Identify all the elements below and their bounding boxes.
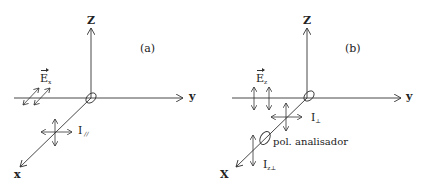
panel-a-axes	[14, 28, 183, 167]
intensity-label-a: I//	[78, 124, 88, 137]
analyzer-label: pol. analisador	[273, 136, 348, 147]
analyzed-intensity-label-b: Iz⊥	[263, 158, 276, 171]
incident-field-arrows-a	[23, 88, 50, 105]
x-axis-b	[236, 98, 307, 167]
x-axis-label-b: X	[220, 168, 229, 181]
diagram-canvas	[0, 0, 422, 189]
incident-field-arrows-b	[254, 87, 269, 110]
panel-label-a: (a)	[140, 42, 155, 55]
y-axis-label-a: y	[189, 90, 195, 103]
intensity-label-b: I⊥	[311, 111, 321, 124]
field-label-a: Ex	[40, 72, 51, 85]
y-axis-label-b: y	[406, 90, 412, 103]
x-axis-label-a: x	[14, 168, 21, 181]
z-axis-label-a: Z	[87, 14, 95, 27]
field-label-b: Ez	[256, 72, 267, 85]
z-axis-label-b: Z	[303, 14, 311, 27]
panel-label-b: (b)	[345, 42, 361, 55]
